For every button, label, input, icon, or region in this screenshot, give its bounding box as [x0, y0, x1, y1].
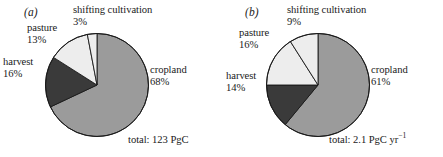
panel-b-label-pasture: pasture 16%: [239, 27, 269, 50]
panel-b: (b) shifting cultivation 9% pasture 16% …: [221, 0, 442, 157]
panel-b-shifting-value: 9%: [287, 16, 366, 28]
panel-b-label-shifting-cultivation: shifting cultivation 9%: [287, 4, 366, 27]
panel-b-pie: [266, 33, 370, 137]
panel-a-pie: [45, 33, 149, 137]
pie-chart-figure: (a) shifting cultivation 3% pasture 13% …: [0, 0, 443, 157]
panel-b-harvest-value: 14%: [226, 82, 256, 94]
panel-a-shifting-value: 3%: [73, 16, 152, 28]
panel-b-total-exponent: −1: [398, 131, 406, 140]
panel-a-cropland-value: 68%: [150, 76, 187, 88]
panel-b-pasture-name: pasture: [239, 27, 269, 38]
panel-a-harvest-value: 16%: [3, 68, 33, 80]
panel-a-label-pasture: pasture 13%: [27, 22, 57, 45]
panel-b-cropland-name: cropland: [371, 64, 408, 75]
panel-a-harvest-name: harvest: [3, 56, 33, 67]
panel-b-total-text: total: 2.1 PgC yr: [329, 134, 398, 145]
panel-a-total: total: 123 PgC: [128, 134, 189, 146]
panel-a-total-text: total: 123 PgC: [128, 134, 189, 145]
panel-a-pie-svg: [45, 33, 149, 137]
panel-b-harvest-name: harvest: [226, 70, 256, 81]
panel-b-total: total: 2.1 PgC yr−1: [329, 134, 406, 146]
panel-a: (a) shifting cultivation 3% pasture 13% …: [0, 0, 221, 157]
panel-b-label-cropland: cropland 61%: [371, 64, 408, 87]
panel-b-shifting-name: shifting cultivation: [287, 4, 366, 15]
panel-b-cropland-value: 61%: [371, 76, 408, 88]
panel-a-label: (a): [24, 6, 38, 18]
panel-a-pasture-value: 13%: [27, 34, 57, 46]
panel-b-pie-svg: [266, 33, 370, 137]
panel-a-cropland-name: cropland: [150, 64, 187, 75]
panel-b-label: (b): [245, 6, 259, 18]
panel-a-label-cropland: cropland 68%: [150, 64, 187, 87]
panel-a-pasture-name: pasture: [27, 22, 57, 33]
panel-b-pasture-value: 16%: [239, 39, 269, 51]
panel-b-label-harvest: harvest 14%: [226, 70, 256, 93]
panel-a-shifting-name: shifting cultivation: [73, 4, 152, 15]
panel-a-label-shifting-cultivation: shifting cultivation 3%: [73, 4, 152, 27]
panel-a-label-harvest: harvest 16%: [3, 56, 33, 79]
